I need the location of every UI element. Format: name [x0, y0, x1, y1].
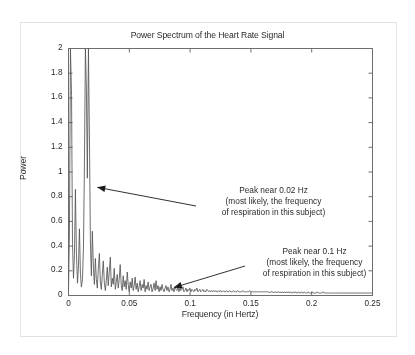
y-tick-label: 1.8: [39, 68, 63, 77]
y-tick-label: 0.8: [39, 191, 63, 200]
annotation-line: (most likely, the frequency: [227, 257, 402, 268]
annotation-line: Peak near 0.02 Hz: [186, 185, 361, 196]
annotation-respiration-peak: Peak near 0.02 Hz(most likely, the frequ…: [186, 185, 361, 219]
x-axis-label: Frequency (in Hertz): [68, 309, 372, 319]
y-tick-label: 1.2: [39, 142, 63, 151]
x-tick-label: 0.05: [112, 299, 146, 308]
x-tick-label: 0.2: [295, 299, 329, 308]
y-tick-label: 0.4: [39, 241, 63, 250]
x-tick-label: 0.15: [234, 299, 268, 308]
annotation-line: Peak near 0.1 Hz: [227, 246, 402, 257]
x-tick-label: 0: [52, 299, 86, 308]
y-tick-label: 0.6: [39, 216, 63, 225]
y-tick-label: 0.2: [39, 265, 63, 274]
y-tick-label: 2: [39, 43, 63, 52]
y-tick-label: 1.4: [39, 117, 63, 126]
annotation-line: (most likely, the frequency: [186, 196, 361, 207]
x-tick-label: 0.25: [356, 299, 390, 308]
chart-title: Power Spectrum of the Heart Rate Signal: [0, 30, 415, 40]
annotation-lowfreq-peak: Peak near 0.1 Hz(most likely, the freque…: [227, 246, 402, 280]
annotation-line: of respiration in this subject): [186, 207, 361, 218]
x-tick-label: 0.1: [173, 299, 207, 308]
y-tick-label: 1: [39, 167, 63, 176]
annotation-line: of respiration in this subject): [227, 268, 402, 279]
y-axis-label: Power: [18, 138, 28, 198]
y-tick-label: 1.6: [39, 92, 63, 101]
